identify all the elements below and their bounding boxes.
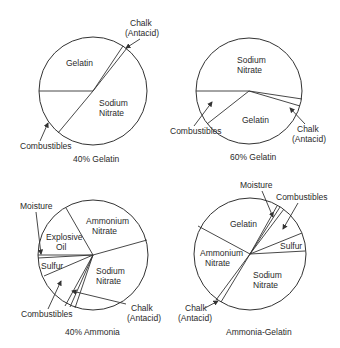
pie-chart-40-ammonia: Moisture Explosive Oil Ammonium Nitrate …: [20, 200, 161, 337]
label-antacid: (Antacid): [178, 313, 212, 323]
label-sodium-nitrate-2: Nitrate: [99, 108, 124, 118]
label-sodium-nitrate: Sodium: [253, 270, 282, 280]
label-gelatin: Gelatin: [242, 115, 269, 125]
pie-chart-40-gelatin: Gelatin Sodium Nitrate Chalk (Antacid) C…: [20, 18, 159, 164]
label-sodium-nitrate-2: Nitrate: [253, 280, 278, 290]
label-gelatin: Gelatin: [230, 219, 257, 229]
label-antacid: (Antacid): [127, 313, 161, 323]
pie-chart-ammonia-gelatin: Moisture Combustibles Gelatin Sulfur Amm…: [178, 180, 328, 337]
label-combustibles: Combustibles: [170, 126, 222, 136]
label-ammonium-nitrate-2: Nitrate: [205, 258, 230, 268]
label-sodium-nitrate: Sodium: [96, 266, 125, 276]
label-gelatin: Gelatin: [66, 58, 93, 68]
label-ammonium-nitrate-2: Nitrate: [92, 226, 117, 236]
label-sodium-nitrate-2: Nitrate: [237, 65, 262, 75]
caption-40-ammonia: 40% Ammonia: [65, 327, 120, 337]
label-antacid: (Antacid): [125, 28, 159, 38]
label-sodium-nitrate: Sodium: [237, 55, 266, 65]
pie-chart-60-gelatin: Sodium Nitrate Gelatin Chalk (Antacid) C…: [170, 38, 326, 162]
label-moisture: Moisture: [240, 180, 273, 190]
label-chalk: Chalk: [130, 18, 152, 28]
label-chalk: Chalk: [131, 303, 153, 313]
caption-ammonia-gelatin: Ammonia-Gelatin: [226, 327, 292, 337]
label-combustibles: Combustibles: [21, 309, 73, 319]
label-sulfur: Sulfur: [41, 261, 63, 271]
label-chalk: Chalk: [297, 124, 319, 134]
label-explosive-oil: Explosive: [46, 232, 83, 242]
label-sodium-nitrate-2: Nitrate: [96, 276, 121, 286]
label-explosive-oil-2: Oil: [56, 242, 67, 252]
label-chalk: Chalk: [185, 303, 207, 313]
pie-charts-figure: Gelatin Sodium Nitrate Chalk (Antacid) C…: [0, 0, 340, 348]
label-antacid: (Antacid): [292, 134, 326, 144]
label-combustibles: Combustibles: [20, 141, 72, 151]
label-moisture: Moisture: [20, 201, 53, 211]
label-ammonium-nitrate: Ammonium: [200, 248, 243, 258]
label-sulfur: Sulfur: [280, 241, 302, 251]
caption-40-gelatin: 40% Gelatin: [73, 154, 120, 164]
label-combustibles: Combustibles: [276, 192, 328, 202]
caption-60-gelatin: 60% Gelatin: [230, 152, 277, 162]
label-ammonium-nitrate: Ammonium: [86, 216, 129, 226]
label-sodium-nitrate: Sodium: [99, 98, 128, 108]
